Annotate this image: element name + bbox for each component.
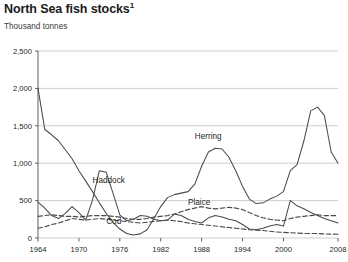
series-label-cod: Cod: [106, 217, 121, 226]
axes-group: [35, 51, 338, 242]
x-tick-label: 1982: [152, 245, 169, 254]
y-tick-label: 2,000: [13, 84, 32, 93]
series-group: [38, 88, 338, 235]
x-tick-label: 1976: [111, 245, 128, 254]
series-label-herring: Herring: [195, 132, 222, 141]
y-tick-label: 1,500: [13, 122, 32, 131]
series-line-cod: [38, 219, 338, 235]
line-chart-svg: 05001,0001,5002,0002,500 196419701976198…: [0, 0, 348, 262]
series-label-haddock: Haddock: [93, 176, 126, 185]
y-tick-label: 2,500: [13, 47, 32, 56]
x-tick-label: 2000: [275, 245, 292, 254]
chart-figure: North Sea fish stocks1 Thousand tonnes 0…: [0, 0, 348, 262]
y-tick-label: 500: [19, 196, 32, 205]
series-label-plaice: Plaice: [188, 198, 211, 207]
x-tick-label: 2008: [330, 245, 347, 254]
x-tick-label: 1988: [193, 245, 210, 254]
x-tick-label: 1970: [70, 245, 87, 254]
plot-area: 05001,0001,5002,0002,500 196419701976198…: [0, 0, 348, 262]
y-tick-label: 0: [28, 234, 32, 243]
x-tick-label: 1964: [30, 245, 47, 254]
x-tick-label: 1994: [234, 245, 251, 254]
ytick-labels-group: 05001,0001,5002,0002,500: [13, 47, 32, 243]
y-tick-label: 1,000: [13, 159, 32, 168]
series-line-herring: [38, 88, 338, 235]
series-line-plaice: [38, 207, 338, 221]
xtick-labels-group: 19641970197619821988199420002008: [30, 245, 347, 254]
